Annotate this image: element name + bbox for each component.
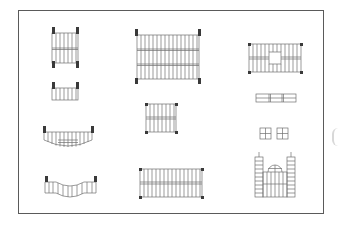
page-edge-artifact [332, 128, 338, 146]
stair-b [135, 29, 201, 84]
stair-e [145, 103, 178, 134]
window-pair [260, 128, 288, 139]
tower-facade [255, 152, 295, 197]
stair-h [139, 168, 204, 199]
stair-c [248, 43, 303, 74]
stair-a [52, 27, 79, 68]
stair-d [52, 82, 79, 100]
stair-f [43, 126, 94, 147]
stair-g [45, 176, 97, 197]
panel-strip [256, 94, 296, 102]
